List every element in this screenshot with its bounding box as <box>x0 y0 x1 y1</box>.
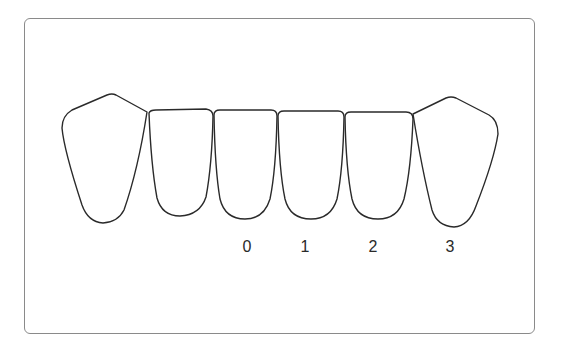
tooth-1 <box>278 111 344 219</box>
label-tooth-0: 0 <box>237 238 257 256</box>
label-tooth-2: 2 <box>363 238 383 256</box>
label-tooth-1: 1 <box>295 238 315 256</box>
tooth-left-canine <box>62 94 147 223</box>
tooth-left-lateral <box>149 109 213 216</box>
teeth-diagram <box>0 0 573 360</box>
label-tooth-3: 3 <box>440 238 460 256</box>
tooth-3-right-canine <box>413 97 498 227</box>
tooth-0 <box>214 110 277 219</box>
tooth-2 <box>345 112 413 219</box>
